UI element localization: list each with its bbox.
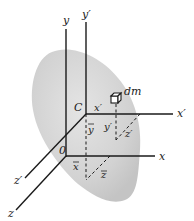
label-y-prime: y′ <box>81 8 91 21</box>
label-x: x <box>159 150 166 163</box>
label-z-prime: z′ <box>13 174 23 187</box>
label-z-prime-inner: z′ <box>124 128 133 139</box>
label-C: C <box>74 101 83 114</box>
label-O: 0 <box>59 144 66 157</box>
label-x-prime: x′ <box>177 107 186 120</box>
label-y-bar: y <box>87 124 94 135</box>
label-y-prime-inner: y′ <box>103 121 113 132</box>
label-x-bar: x <box>73 161 79 172</box>
parallel-axis-diagram: y y′ dm C x′ x′ y′ z′ y 0 x x z z′ z <box>0 0 194 221</box>
dm-cube-icon <box>111 93 121 103</box>
z-axis <box>16 156 66 210</box>
label-dm: dm <box>124 85 141 98</box>
label-y: y <box>62 14 70 27</box>
label-z: z <box>7 207 14 220</box>
label-x-prime-inner: x′ <box>94 102 103 113</box>
